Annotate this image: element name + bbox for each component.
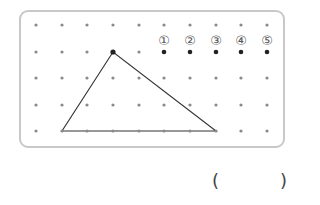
grid-dot xyxy=(214,23,217,26)
grid-dot xyxy=(137,23,140,26)
option-point[interactable] xyxy=(214,50,219,55)
grid-dot xyxy=(85,103,88,106)
grid-dot xyxy=(85,23,88,26)
grid-dot xyxy=(60,129,63,132)
grid-dot xyxy=(239,129,242,132)
grid-dot xyxy=(214,103,217,106)
grid-dot xyxy=(162,23,165,26)
option-point[interactable] xyxy=(162,50,167,55)
grid-dot xyxy=(188,76,191,79)
grid-dot xyxy=(34,103,37,106)
grid-dot xyxy=(34,76,37,79)
answer-close-paren: ) xyxy=(280,170,287,191)
grid-dot xyxy=(265,23,268,26)
grid-dot xyxy=(188,23,191,26)
grid-dot xyxy=(111,76,114,79)
grid-dot xyxy=(60,76,63,79)
grid-dot xyxy=(214,129,217,132)
option-point[interactable] xyxy=(239,50,244,55)
grid-dot xyxy=(111,23,114,26)
grid-dot xyxy=(137,76,140,79)
grid-dot xyxy=(60,23,63,26)
option-label-4[interactable]: ④ xyxy=(235,34,247,47)
grid-dot xyxy=(137,103,140,106)
option-label-2[interactable]: ② xyxy=(184,34,196,47)
grid-dot xyxy=(162,76,165,79)
grid-dot xyxy=(137,129,140,132)
answer-open-paren: ( xyxy=(212,170,219,191)
grid-dot xyxy=(34,129,37,132)
grid-dot xyxy=(265,103,268,106)
grid-dot xyxy=(265,76,268,79)
grid-dot xyxy=(239,23,242,26)
grid-dot xyxy=(60,50,63,53)
option-point[interactable] xyxy=(188,50,193,55)
grid-dot xyxy=(111,129,114,132)
option-label-5[interactable]: ⑤ xyxy=(261,34,273,47)
grid-dot xyxy=(110,49,115,54)
grid-dot xyxy=(188,129,191,132)
grid-dot xyxy=(85,76,88,79)
option-label-1[interactable]: ① xyxy=(158,34,170,47)
grid-dot xyxy=(111,103,114,106)
grid-dot xyxy=(214,76,217,79)
grid-dot xyxy=(239,103,242,106)
grid-dot xyxy=(162,129,165,132)
grid-dot xyxy=(34,50,37,53)
grid-dot xyxy=(137,50,140,53)
grid-dot xyxy=(265,129,268,132)
grid-dot xyxy=(34,23,37,26)
grid-dot xyxy=(239,76,242,79)
grid-dot xyxy=(60,103,63,106)
option-point[interactable] xyxy=(265,50,270,55)
grid-dot xyxy=(188,103,191,106)
grid-dot xyxy=(162,103,165,106)
answer-blank[interactable] xyxy=(225,170,275,190)
grid-dot xyxy=(85,50,88,53)
option-label-3[interactable]: ③ xyxy=(210,34,222,47)
triangle-shape xyxy=(62,52,216,131)
grid-dot xyxy=(85,129,88,132)
